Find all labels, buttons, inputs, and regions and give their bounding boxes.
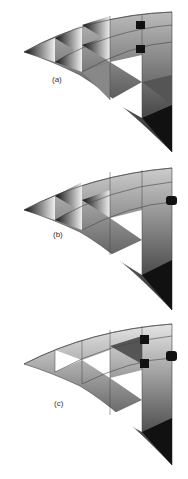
- shaded-mesh-c: [0, 320, 188, 479]
- light-source-icon: [166, 351, 177, 361]
- panel-label-b: (b): [53, 230, 63, 239]
- light-source-icon: [136, 45, 145, 53]
- panel-label-a: (a): [52, 75, 62, 84]
- light-source-icon: [166, 196, 177, 205]
- panel-label-c: (c): [54, 399, 63, 408]
- light-source-icon: [140, 335, 149, 344]
- panel-c: (c): [0, 320, 188, 479]
- light-source-icon: [136, 21, 145, 29]
- shaded-mesh-a: [0, 0, 188, 160]
- shaded-mesh-b: [0, 160, 188, 320]
- light-source-icon: [140, 359, 149, 368]
- panel-b: (b): [0, 160, 188, 320]
- panel-a: (a): [0, 0, 188, 160]
